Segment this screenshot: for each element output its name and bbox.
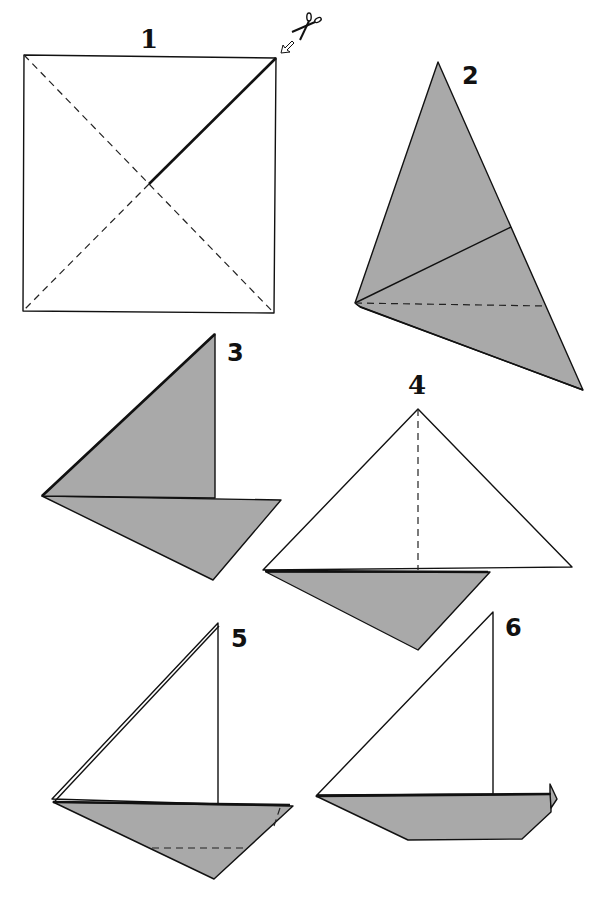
- hull-triangle: [53, 802, 293, 879]
- step-5: 5: [52, 623, 293, 879]
- origami-diagram: 1 2 3 4: [0, 0, 599, 910]
- step-3: 3: [42, 334, 281, 580]
- step-6-number: 6: [505, 614, 522, 642]
- step-4-number: 4: [408, 370, 426, 400]
- arrow-icon: [281, 41, 294, 53]
- step-4: 4: [263, 370, 572, 650]
- step-1-number: 1: [140, 24, 158, 54]
- hull-top-edge: [265, 571, 488, 572]
- hull-triangle: [266, 572, 490, 650]
- stern-flap: [550, 784, 557, 808]
- step-1: 1: [23, 13, 322, 313]
- step-2-number: 2: [462, 62, 479, 90]
- step-6: 6: [316, 612, 557, 840]
- kite-shape: [355, 62, 583, 390]
- step-3-number: 3: [227, 339, 244, 367]
- step-5-number: 5: [231, 625, 248, 653]
- hull-triangle: [42, 496, 281, 580]
- hull-trapezoid: [316, 794, 551, 840]
- scissors-icon: [292, 13, 322, 40]
- step-2: 2: [355, 62, 583, 390]
